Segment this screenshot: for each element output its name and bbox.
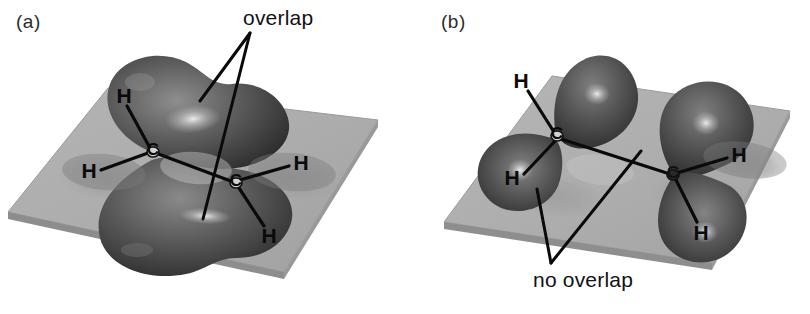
panel-b-carbon-right-label: C (667, 163, 679, 183)
panel-a-hydrogen-left-label: H (81, 159, 96, 183)
panel-label-a: (a) (16, 11, 41, 33)
orbital-overlap-figure: (a) overlap C C H H H H (b) no overlap C… (0, 0, 810, 314)
panel-a-carbon-right-label: C (230, 171, 242, 191)
panel-a-hydrogen-lower-right-label: H (261, 224, 276, 248)
panel-label-b: (b) (441, 11, 466, 33)
figure-canvas (0, 0, 810, 314)
panel-b-hydrogen-right-label: H (731, 143, 746, 167)
panel-b-hydrogen-upper-left-label: H (513, 69, 528, 93)
panel-b-carbon-left-label: C (551, 124, 563, 144)
callout-overlap-label: overlap (243, 6, 313, 30)
panel-a-carbon-left-label: C (147, 140, 159, 160)
panel-a-hydrogen-upper-left-label: H (116, 84, 131, 108)
panel-b-hydrogen-lower-left-label: H (504, 166, 519, 190)
panel-b-hydrogen-lower-right-label: H (693, 221, 708, 245)
panel-a-hydrogen-right-label: H (293, 151, 308, 175)
callout-no-overlap-label: no overlap (533, 268, 633, 292)
